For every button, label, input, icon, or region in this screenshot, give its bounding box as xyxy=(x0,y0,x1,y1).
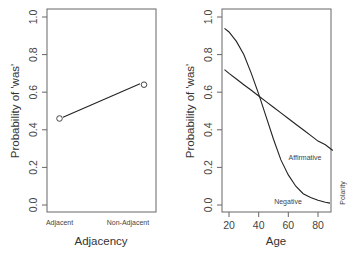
right-x-axis xyxy=(229,212,318,217)
right-ytick-4: 0.8 xyxy=(202,47,214,62)
right-ytick-2: 0.4 xyxy=(202,122,214,137)
left-ytick-0: 0.0 xyxy=(27,198,39,213)
left-y-axis-label: Probability of 'was' xyxy=(9,64,21,159)
series-label-negative: Negative xyxy=(274,198,302,206)
category-non-adjacent: Non-Adjacent xyxy=(107,219,149,227)
negative-curve xyxy=(225,28,331,203)
right-xtick-80: 80 xyxy=(312,219,324,231)
right-y-axis-label: Probability of 'was' xyxy=(184,64,196,159)
right-ytick-0: 0.0 xyxy=(202,198,214,213)
left-ytick-5: 1.0 xyxy=(27,10,39,25)
category-adjacent: Adjacent xyxy=(46,219,73,227)
affirmative-curve xyxy=(225,70,333,151)
left-plot-frame xyxy=(47,9,156,212)
right-plot-frame xyxy=(222,9,331,212)
right-ytick-3: 0.6 xyxy=(202,85,214,100)
right-y-axis xyxy=(217,17,222,205)
point-non-adjacent xyxy=(141,82,147,88)
left-ytick-2: 0.4 xyxy=(27,122,39,137)
left-x-axis-label: Adjacency xyxy=(74,235,127,247)
left-ytick-4: 0.8 xyxy=(27,47,39,62)
right-xtick-60: 60 xyxy=(282,219,294,231)
right-panel: 0.0 0.2 0.4 0.6 0.8 1.0 Probability of '… xyxy=(184,9,347,247)
right-x-axis-label: Age xyxy=(266,235,286,247)
left-y-axis xyxy=(42,17,47,205)
right-xtick-40: 40 xyxy=(253,219,265,231)
left-ytick-3: 0.6 xyxy=(27,85,39,100)
right-ytick-1: 0.2 xyxy=(202,160,214,175)
point-adjacent xyxy=(57,116,63,122)
chart-figure: 0.0 0.2 0.4 0.6 0.8 1.0 Probability of '… xyxy=(0,0,353,257)
legend-title-polarity: Polarity xyxy=(339,181,347,205)
left-panel: 0.0 0.2 0.4 0.6 0.8 1.0 Probability of '… xyxy=(9,9,156,247)
right-ytick-5: 1.0 xyxy=(202,10,214,25)
left-ytick-1: 0.2 xyxy=(27,160,39,175)
series-label-affirmative: Affirmative xyxy=(289,154,322,161)
adjacency-line xyxy=(63,84,140,118)
right-xtick-20: 20 xyxy=(223,219,235,231)
